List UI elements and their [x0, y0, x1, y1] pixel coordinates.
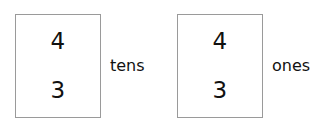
place-label-tens: tens [110, 58, 145, 74]
place-value-worksheet: 4 3 tens 4 3 ones [0, 0, 328, 134]
digit-tens-top: 4 [16, 30, 100, 53]
digit-ones-bottom: 3 [178, 79, 262, 102]
place-value-group-tens: 4 3 tens [15, 14, 145, 118]
digit-tens-bottom: 3 [16, 79, 100, 102]
digit-box-tens[interactable]: 4 3 [15, 14, 101, 118]
place-value-group-ones: 4 3 ones [177, 14, 310, 118]
digit-box-ones[interactable]: 4 3 [177, 14, 263, 118]
digit-ones-top: 4 [178, 30, 262, 53]
place-label-ones: ones [272, 58, 310, 74]
